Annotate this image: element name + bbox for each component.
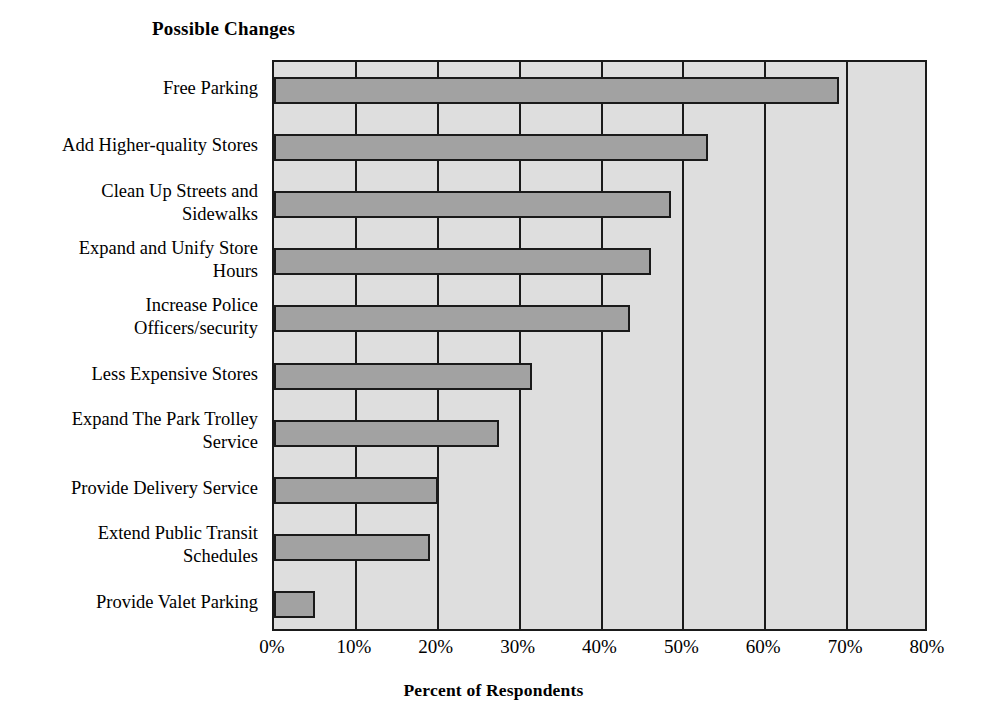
bar-row bbox=[274, 176, 925, 233]
category-label: Add Higher-quality Stores bbox=[0, 134, 258, 157]
bar[interactable] bbox=[274, 191, 671, 218]
x-tick-label: 50% bbox=[641, 636, 721, 658]
bar-row bbox=[274, 62, 925, 119]
category-label: Expand and Unify StoreHours bbox=[0, 237, 258, 283]
bar[interactable] bbox=[274, 134, 708, 161]
bar-row bbox=[274, 405, 925, 462]
bar[interactable] bbox=[274, 77, 839, 104]
category-label: Provide Valet Parking bbox=[0, 591, 258, 614]
bar[interactable] bbox=[274, 420, 499, 447]
category-label-line: Officers/security bbox=[0, 317, 258, 340]
x-tick-label: 0% bbox=[232, 636, 312, 658]
bar[interactable] bbox=[274, 363, 532, 390]
x-tick-label: 30% bbox=[478, 636, 558, 658]
x-tick-label: 40% bbox=[560, 636, 640, 658]
category-label: Free Parking bbox=[0, 77, 258, 100]
category-label: Expand The Park TrolleyService bbox=[0, 408, 258, 454]
category-label-line: Provide Delivery Service bbox=[0, 477, 258, 500]
category-label-line: Expand The Park Trolley bbox=[0, 408, 258, 431]
category-label-line: Clean Up Streets and bbox=[0, 180, 258, 203]
category-label: Provide Delivery Service bbox=[0, 477, 258, 500]
bar[interactable] bbox=[274, 305, 630, 332]
bar-row bbox=[274, 576, 925, 633]
category-label-line: Free Parking bbox=[0, 77, 258, 100]
category-label: Extend Public TransitSchedules bbox=[0, 522, 258, 568]
bar-chart-figure: Possible Changes Percent of Respondents … bbox=[0, 0, 987, 724]
chart-title: Possible Changes bbox=[152, 18, 295, 40]
category-label-line: Sidewalks bbox=[0, 203, 258, 226]
category-label-line: Add Higher-quality Stores bbox=[0, 134, 258, 157]
category-label: Less Expensive Stores bbox=[0, 363, 258, 386]
category-label-line: Service bbox=[0, 431, 258, 454]
category-label-line: Expand and Unify Store bbox=[0, 237, 258, 260]
category-label-line: Schedules bbox=[0, 545, 258, 568]
bar-row bbox=[274, 348, 925, 405]
x-tick-label: 20% bbox=[396, 636, 476, 658]
bar-row bbox=[274, 519, 925, 576]
category-label: Clean Up Streets andSidewalks bbox=[0, 180, 258, 226]
bar-row bbox=[274, 290, 925, 347]
category-label-line: Increase Police bbox=[0, 294, 258, 317]
bar-row bbox=[274, 462, 925, 519]
category-label-line: Extend Public Transit bbox=[0, 522, 258, 545]
x-axis-title: Percent of Respondents bbox=[0, 680, 987, 701]
bar[interactable] bbox=[274, 591, 315, 618]
bar-row bbox=[274, 233, 925, 290]
category-label-line: Provide Valet Parking bbox=[0, 591, 258, 614]
bar[interactable] bbox=[274, 534, 430, 561]
bar-row bbox=[274, 119, 925, 176]
category-label: Increase PoliceOfficers/security bbox=[0, 294, 258, 340]
x-tick-label: 60% bbox=[723, 636, 803, 658]
bar[interactable] bbox=[274, 477, 438, 504]
x-tick-label: 70% bbox=[805, 636, 885, 658]
x-tick-label: 80% bbox=[887, 636, 967, 658]
category-label-line: Hours bbox=[0, 260, 258, 283]
plot-area bbox=[272, 60, 927, 631]
category-label-line: Less Expensive Stores bbox=[0, 363, 258, 386]
bar[interactable] bbox=[274, 248, 651, 275]
x-tick-label: 10% bbox=[314, 636, 394, 658]
